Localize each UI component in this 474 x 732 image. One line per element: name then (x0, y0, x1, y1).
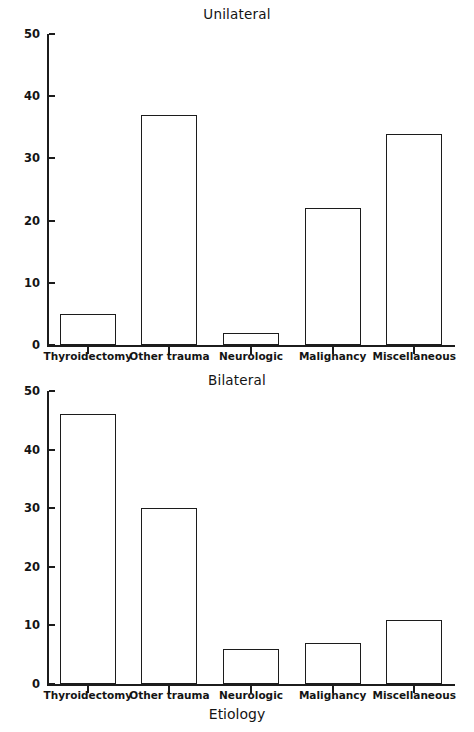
bar (305, 643, 361, 684)
y-tick-mark (49, 33, 55, 35)
bar (141, 508, 197, 684)
x-tick-label: Neurologic (219, 350, 283, 362)
y-tick-mark (49, 507, 55, 509)
y-tick: 20 (47, 566, 57, 568)
bar (223, 649, 279, 684)
y-tick-label: 40 (24, 443, 40, 457)
panel-unilateral: Unilateral percent 01020304050 Thyroidec… (0, 0, 474, 366)
y-tick-label: 40 (24, 89, 40, 103)
y-tick: 20 (47, 220, 57, 222)
y-tick-mark (49, 390, 55, 392)
x-tick-label: Other trauma (129, 350, 209, 362)
panel-unilateral-plot-area: 01020304050 (47, 34, 455, 345)
y-tick-label: 20 (24, 560, 40, 574)
y-tick-label: 10 (24, 276, 40, 290)
panel-unilateral-title: Unilateral (0, 6, 474, 22)
x-tick-label: Thyroidectomy (44, 350, 132, 362)
y-tick: 0 (47, 344, 57, 346)
y-tick-label: 20 (24, 214, 40, 228)
panel-bilateral-title: Bilateral (0, 372, 474, 388)
y-tick-label: 50 (24, 27, 40, 41)
panel-unilateral-y-axis-line (47, 34, 49, 345)
y-tick-mark (49, 344, 55, 346)
x-tick-label: Miscellaneous (372, 689, 455, 701)
bar (223, 333, 279, 345)
y-tick: 40 (47, 95, 57, 97)
figure-two-panel-bar-charts: Unilateral percent 01020304050 Thyroidec… (0, 0, 474, 732)
y-tick-mark (49, 220, 55, 222)
x-tick-label: Miscellaneous (372, 350, 455, 362)
bar (60, 414, 116, 684)
y-tick-mark (49, 157, 55, 159)
y-tick: 10 (47, 624, 57, 626)
x-tick-label: Other trauma (129, 689, 209, 701)
panel-bilateral-y-axis-line (47, 391, 49, 684)
y-tick: 10 (47, 282, 57, 284)
panel-bilateral: Bilateral percent 01020304050 Thyroidect… (0, 366, 474, 732)
y-tick-label: 30 (24, 501, 40, 515)
y-tick: 40 (47, 449, 57, 451)
bar (141, 115, 197, 345)
y-tick: 30 (47, 507, 57, 509)
x-tick-label: Thyroidectomy (44, 689, 132, 701)
bar (60, 314, 116, 345)
x-tick-label: Neurologic (219, 689, 283, 701)
x-tick-label: Malignancy (299, 689, 366, 701)
y-tick-label: 50 (24, 384, 40, 398)
y-tick-mark (49, 683, 55, 685)
bar (386, 134, 442, 345)
y-tick-mark (49, 449, 55, 451)
panel-bilateral-x-axis-label: Etiology (0, 706, 474, 722)
y-tick-mark (49, 282, 55, 284)
y-tick-label: 0 (32, 677, 40, 691)
y-tick-label: 10 (24, 618, 40, 632)
y-tick-label: 0 (32, 338, 40, 352)
y-tick-mark (49, 95, 55, 97)
y-tick: 50 (47, 390, 57, 392)
bar (305, 208, 361, 345)
y-tick-mark (49, 566, 55, 568)
y-tick-label: 30 (24, 151, 40, 165)
bar (386, 620, 442, 684)
y-tick: 50 (47, 33, 57, 35)
y-tick-mark (49, 624, 55, 626)
x-tick-label: Malignancy (299, 350, 366, 362)
y-tick: 30 (47, 157, 57, 159)
y-tick: 0 (47, 683, 57, 685)
panel-bilateral-plot-area: 01020304050 (47, 391, 455, 684)
